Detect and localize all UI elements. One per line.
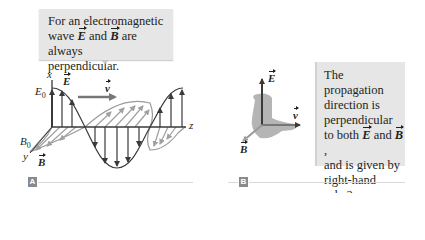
infobox-panel-b: The propagation direction is perpendicul… [315, 62, 405, 166]
velocity-label-a: v [105, 82, 110, 94]
panel-rule-a [38, 182, 193, 183]
infobox-line-6: right-hand [324, 173, 405, 188]
infobox-text: to both [324, 128, 362, 142]
infobox-line-4: to both E and B, [324, 128, 405, 158]
e-field-wave [52, 88, 183, 168]
z-axis-label: z [189, 119, 193, 131]
infobox-text: , [324, 143, 327, 157]
b0-subscript: 0 [27, 141, 31, 150]
y-axis-label: y [23, 150, 28, 162]
x-axis-label: x [47, 68, 52, 80]
e-vector-label-a: E [63, 75, 70, 87]
velocity-label-b: v [293, 109, 298, 121]
y-axis [30, 127, 52, 153]
infobox-line-1: The propagation [324, 68, 405, 98]
b0-symbol: B [20, 135, 27, 147]
infobox-line-3: perpendicular [324, 113, 405, 128]
panel-rule-b-left [228, 182, 238, 183]
infobox-line-7: rule 2. [324, 188, 405, 193]
panel-rule-b [249, 182, 405, 183]
b-vector-label-a: B [38, 156, 45, 168]
vector-b-symbol: B [395, 128, 403, 143]
vector-e-symbol: E [362, 128, 370, 143]
infobox-text: and [371, 128, 395, 142]
right-hand-illustration [252, 94, 297, 139]
e-vector-label-b: E [268, 72, 275, 84]
b-vector-label-b: B [240, 143, 247, 155]
e0-subscript: 0 [42, 91, 46, 100]
e0-symbol: E [35, 85, 42, 97]
infobox-line-5: and is given by [324, 158, 405, 173]
e0-label: E0 [35, 85, 46, 100]
infobox-line-2: direction is [324, 98, 405, 113]
panel-tag-b: B [239, 177, 248, 187]
panel-tag-a: A [28, 177, 37, 187]
b0-label: B0 [20, 135, 31, 150]
